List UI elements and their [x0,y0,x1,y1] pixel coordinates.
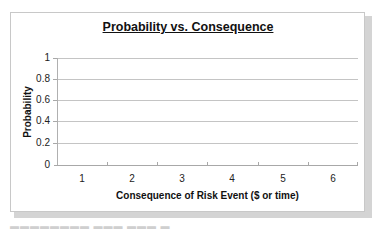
x-tick-label: 5 [258,173,308,184]
x-tick-label: 3 [157,173,207,184]
y-tick-label: 1 [10,53,50,63]
x-tick-mark [157,162,158,166]
figure-caption: ▬▬▬▬▬▬▬▬ ▬▬▬ ▬▬▬ ▬ [10,221,171,230]
x-axis-label: Consequence of Risk Event ($ or time) [57,190,358,201]
x-tick-mark [207,162,208,166]
x-tick-label: 4 [207,173,257,184]
x-tick-label: 2 [107,173,157,184]
x-tick-mark [357,162,358,166]
y-tick-label: 0.2 [10,138,50,148]
x-tick-label: 6 [308,173,358,184]
gridline [57,79,358,80]
gridline [57,100,358,101]
y-tick-label: 0.6 [10,95,50,105]
x-tick-mark [107,162,108,166]
y-tick-label: 0 [10,160,50,170]
x-tick-mark [308,162,309,166]
chart-title: Probability vs. Consequence [0,20,376,34]
gridline [57,143,358,144]
x-tick-mark [258,162,259,166]
y-tick-label: 0.8 [10,74,50,84]
gridline [57,58,358,59]
y-axis [57,58,58,166]
x-axis [54,165,358,166]
x-tick-label: 1 [57,173,107,184]
y-tick-label: 0.4 [10,116,50,126]
y-axis-label: Probability [22,86,33,138]
gridline [57,121,358,122]
